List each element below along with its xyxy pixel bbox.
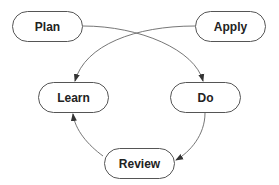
node-label: Plan — [35, 20, 60, 34]
node-review[interactable]: Review — [104, 148, 175, 179]
node-label: Apply — [214, 20, 247, 34]
node-do[interactable]: Do — [170, 82, 241, 113]
node-apply[interactable]: Apply — [195, 11, 266, 42]
node-learn[interactable]: Learn — [38, 82, 109, 113]
edge-apply-to-learn — [75, 26, 195, 81]
edge-plan-to-do — [83, 26, 203, 81]
node-label: Learn — [57, 91, 90, 105]
edge-do-to-review — [176, 113, 205, 160]
edge-review-to-learn — [73, 114, 103, 156]
diagram-canvas: Plan Apply Learn Do Review — [0, 0, 279, 185]
node-plan[interactable]: Plan — [12, 11, 83, 42]
node-label: Do — [198, 91, 214, 105]
node-label: Review — [119, 157, 160, 171]
